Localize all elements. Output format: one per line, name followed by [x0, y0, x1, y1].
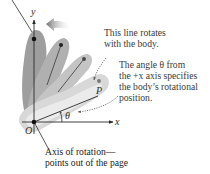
point-dot-3 [82, 57, 86, 61]
rotating-line-annotation: This line rotates with the body. [104, 27, 166, 49]
point-dot-p [97, 79, 101, 83]
x-axis-label: x [115, 117, 119, 127]
angle-text-3: the body’s rotational [119, 81, 198, 92]
angle-text-1: The angle θ from [119, 59, 198, 70]
point-p-label: P [96, 86, 102, 96]
axis-of-rotation-annotation: Axis of rotation— points out of the page [45, 146, 128, 168]
point-dot-1 [32, 37, 37, 42]
angle-theta-label: θ [65, 111, 70, 121]
rotating-line-text-1: This line rotates [104, 27, 166, 38]
angle-text-4: position. [119, 92, 198, 103]
angle-annotation: The angle θ from the +x axis specifies t… [119, 59, 198, 103]
origin-dot [32, 120, 37, 125]
axis-of-rotation-text-2: points out of the page [45, 157, 128, 168]
axis-of-rotation-text-1: Axis of rotation— [45, 146, 128, 157]
rotation-direction-arrow-icon [46, 18, 72, 31]
point-dot-2 [59, 43, 63, 47]
origin-label: O [25, 126, 32, 136]
angle-text-2: the +x axis specifies [119, 70, 198, 81]
upper-left-line [12, 0, 32, 32]
rotating-line-text-2: with the body. [104, 38, 166, 49]
y-axis-label: y [31, 7, 35, 17]
